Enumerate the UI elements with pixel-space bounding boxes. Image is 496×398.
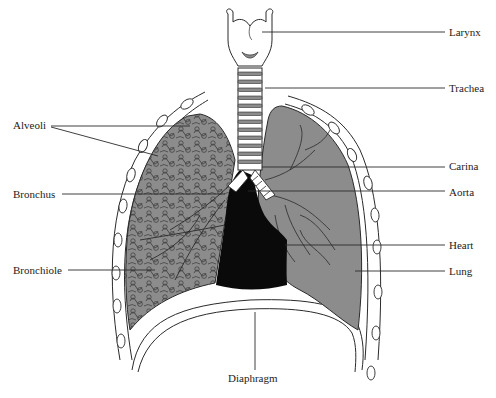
respiratory-diagram: Larynx Trachea Carina Aorta Heart Lung A… [0, 0, 496, 398]
label-bronchiole: Bronchiole [13, 264, 62, 276]
label-trachea: Trachea [449, 82, 484, 94]
label-carina: Carina [449, 160, 478, 172]
diaphragm-outline [132, 300, 363, 372]
label-diaphragm: Diaphragm [228, 372, 277, 384]
label-heart: Heart [449, 239, 473, 251]
trachea-shape [238, 68, 262, 170]
label-alveoli: Alveoli [13, 119, 46, 131]
label-lung: Lung [449, 265, 472, 277]
label-larynx: Larynx [449, 26, 481, 38]
diagram-artwork [0, 0, 496, 398]
larynx-shape [227, 9, 273, 66]
right-lung [258, 106, 362, 330]
label-bronchus: Bronchus [13, 188, 55, 200]
label-aorta: Aorta [449, 186, 474, 198]
